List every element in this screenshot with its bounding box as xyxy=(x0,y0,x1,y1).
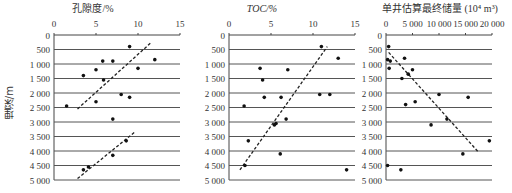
data-point xyxy=(247,139,251,143)
y-tick-label: 4 500 xyxy=(30,161,51,171)
data-point xyxy=(399,168,403,172)
data-point xyxy=(278,152,282,156)
y-tick-label: 3 000 xyxy=(205,118,226,128)
data-point xyxy=(403,56,407,60)
y-tick-label: 4 000 xyxy=(30,147,51,157)
y-tick-label: 3 500 xyxy=(30,132,51,142)
y-tick-label: 2 000 xyxy=(362,89,383,99)
x-tick-label: 20 000 xyxy=(480,19,505,29)
y-tick-label: 1 000 xyxy=(30,60,51,70)
data-point xyxy=(429,123,433,127)
y-tick-label: 0 xyxy=(378,31,383,41)
y-tick-label: 500 xyxy=(369,45,383,55)
data-point xyxy=(328,93,332,97)
data-point xyxy=(406,72,410,76)
y-tick-label: 1 000 xyxy=(362,60,383,70)
data-point xyxy=(258,67,262,71)
y-tick-label: 3 500 xyxy=(362,132,383,142)
x-tick-label: 5 000 xyxy=(402,19,423,29)
data-point xyxy=(286,68,290,72)
scatter-panel-3: 单井估算最终储量 (10⁴ m³)05 00010 00015 00020 00… xyxy=(362,2,505,186)
scatter-panel-1: 孔隙度/%05101505001 0001 5002 0002 5003 000… xyxy=(30,2,185,186)
x-tick-label: 0 xyxy=(384,19,389,29)
x-tick-label: 0 xyxy=(227,19,232,29)
data-point xyxy=(400,77,404,81)
y-tick-label: 3 500 xyxy=(205,132,226,142)
y-tick-label: 5 000 xyxy=(205,176,226,186)
y-tick-label: 5 000 xyxy=(30,176,51,186)
x-tick-label: 5 xyxy=(94,19,99,29)
data-point xyxy=(318,93,322,97)
data-point xyxy=(274,122,278,126)
y-tick-label: 1 500 xyxy=(205,74,226,84)
y-tick-label: 0 xyxy=(46,31,51,41)
y-tick-label: 4 000 xyxy=(205,147,226,157)
data-point xyxy=(128,45,132,49)
data-point xyxy=(388,59,392,63)
data-point xyxy=(128,96,132,100)
y-tick-label: 4 500 xyxy=(205,161,226,171)
data-point xyxy=(94,100,98,104)
y-tick-label: 2 500 xyxy=(362,103,383,113)
data-point xyxy=(82,74,86,78)
y-tick-label: 4 500 xyxy=(362,161,383,171)
data-point xyxy=(466,96,470,100)
data-point xyxy=(111,59,115,63)
panel-title: 单井估算最终储量 (10⁴ m³) xyxy=(382,2,498,15)
data-point xyxy=(261,78,265,82)
data-point xyxy=(94,68,98,72)
data-point xyxy=(336,56,340,60)
data-point xyxy=(119,93,123,97)
x-tick-label: 0 xyxy=(52,19,57,29)
data-point xyxy=(279,96,283,100)
data-point xyxy=(242,104,246,108)
data-point xyxy=(243,164,247,168)
data-point xyxy=(124,139,128,143)
data-point xyxy=(284,117,288,121)
y-tick-label: 3 000 xyxy=(362,118,383,128)
data-point xyxy=(87,165,91,169)
trend-line xyxy=(389,52,479,152)
scatter-panel-2: TOC/%05101505001 0001 5002 0002 5003 000… xyxy=(205,3,360,186)
y-tick-label: 5 000 xyxy=(362,176,383,186)
data-point xyxy=(404,103,408,107)
data-point xyxy=(461,152,465,156)
data-point xyxy=(488,139,492,143)
data-point xyxy=(387,45,391,49)
y-tick-label: 0 xyxy=(221,31,226,41)
y-tick-label: 1 000 xyxy=(205,60,226,70)
x-tick-label: 15 xyxy=(351,19,361,29)
data-point xyxy=(153,58,157,62)
y-tick-label: 4 000 xyxy=(362,147,383,157)
data-point xyxy=(65,104,69,108)
data-point xyxy=(136,67,140,71)
y-tick-label: 2 500 xyxy=(205,103,226,113)
data-point xyxy=(387,67,391,71)
data-point xyxy=(320,45,324,49)
data-point xyxy=(262,96,266,100)
y-axis-label: 埋深/m xyxy=(2,86,16,119)
trend-line xyxy=(78,42,152,109)
data-point xyxy=(345,168,349,172)
data-point xyxy=(411,68,415,72)
figure: 埋深/m 孔隙度/%05101505001 0001 5002 0002 500… xyxy=(0,0,512,193)
panel-title: 孔隙度/% xyxy=(72,2,113,14)
x-tick-label: 10 xyxy=(309,19,319,29)
y-tick-label: 1 500 xyxy=(362,74,383,84)
data-point xyxy=(111,154,115,158)
data-point xyxy=(111,117,115,121)
y-tick-label: 500 xyxy=(37,45,51,55)
data-point xyxy=(386,164,390,168)
y-tick-label: 2 000 xyxy=(205,89,226,99)
x-tick-label: 10 000 xyxy=(427,19,452,29)
y-tick-label: 1 500 xyxy=(30,74,51,84)
y-tick-label: 500 xyxy=(212,45,226,55)
data-point xyxy=(413,100,417,104)
panel-title: TOC/% xyxy=(247,3,277,14)
data-point xyxy=(102,78,106,82)
data-point xyxy=(101,59,105,63)
y-tick-label: 2 000 xyxy=(30,89,51,99)
data-point xyxy=(82,168,86,172)
y-tick-label: 2 500 xyxy=(30,103,51,113)
x-tick-label: 15 xyxy=(176,19,186,29)
